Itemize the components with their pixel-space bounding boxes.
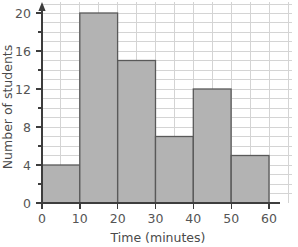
x-tick-label: 30: [148, 211, 164, 226]
x-tick-label: 50: [223, 211, 239, 226]
histogram-bar: [231, 156, 269, 204]
x-tick-label: 10: [72, 211, 88, 226]
histogram-bar: [118, 61, 156, 204]
y-axis-title: Number of students: [0, 45, 15, 170]
y-axis-arrow-icon: [38, 2, 45, 11]
x-tick-label: 20: [110, 211, 126, 226]
y-tick-label: 4: [23, 158, 31, 173]
histogram-bar: [156, 137, 194, 204]
y-tick-label: 12: [15, 82, 31, 97]
histogram-bar: [80, 13, 118, 203]
histogram-bar: [193, 89, 231, 203]
y-axis-tick-labels: 0 4 8 12 16 20: [15, 6, 31, 211]
y-tick-label: 16: [15, 44, 31, 59]
histogram-bar: [42, 165, 80, 203]
x-axis-title: Time (minutes): [110, 230, 206, 245]
x-tick-label: 0: [38, 211, 46, 226]
x-tick-label: 40: [185, 211, 201, 226]
x-axis-ticks: [42, 203, 269, 209]
histogram-figure: 0 4 8 12 16 20 0 10 20 30 40 50 60 Time …: [0, 0, 298, 247]
y-axis-ticks: [36, 13, 42, 203]
x-axis-tick-labels: 0 10 20 30 40 50 60: [38, 211, 277, 226]
x-tick-label: 60: [261, 211, 277, 226]
histogram-chart: 0 4 8 12 16 20 0 10 20 30 40 50 60 Time …: [0, 0, 298, 247]
y-tick-label: 8: [23, 120, 31, 135]
y-tick-label: 20: [15, 6, 31, 21]
y-tick-label: 0: [23, 196, 31, 211]
